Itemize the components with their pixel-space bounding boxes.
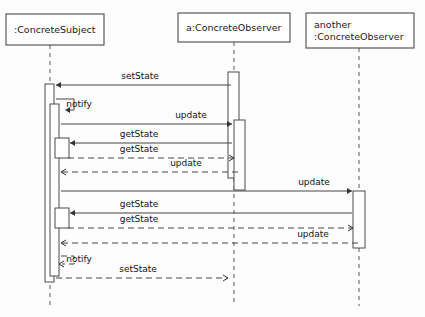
participant-label-subject-line-0: :ConcreteSubject xyxy=(14,24,96,35)
participant-observer_a[interactable]: a:ConcreteObserver xyxy=(178,13,290,42)
activation-bar-subject-notify xyxy=(50,104,59,276)
participant-label-observer_another-line-1: :ConcreteObserver xyxy=(314,31,404,42)
participant-label-observer_a-line-0: a:ConcreteObserver xyxy=(186,22,281,33)
activation-bar-obs-a-inner xyxy=(234,120,245,190)
message-label-getstate: getState xyxy=(120,129,159,139)
activation-bar-obs-b-outer xyxy=(353,191,365,248)
message-label-setstate: setState xyxy=(121,71,159,81)
uml-sequence-diagram: setStatenotifyupdategetStategetStateupda… xyxy=(0,0,425,317)
participant-observer_another[interactable]: another:ConcreteObserver xyxy=(306,13,414,48)
participant-subject[interactable]: :ConcreteSubject xyxy=(6,14,104,45)
sequence-diagram-canvas: setStatenotifyupdategetStategetStateupda… xyxy=(0,0,425,317)
message-label-update: update xyxy=(170,158,202,168)
activation-bar-subject-get-2 xyxy=(55,208,69,228)
message-label-getstate: getState xyxy=(120,144,159,154)
participant-label-observer_another-line-0: another xyxy=(314,19,351,30)
activation-bar-subject-get-1 xyxy=(55,138,69,158)
message-label-notify: notify xyxy=(66,99,92,109)
message-label-notify: notify xyxy=(66,254,92,264)
message-label-setstate: setState xyxy=(119,264,157,274)
message-label-getstate: getState xyxy=(120,214,159,224)
message-label-update: update xyxy=(175,110,207,120)
message-label-getstate: getState xyxy=(120,199,159,209)
message-label-update: update xyxy=(297,229,329,239)
message-label-update: update xyxy=(298,177,330,187)
